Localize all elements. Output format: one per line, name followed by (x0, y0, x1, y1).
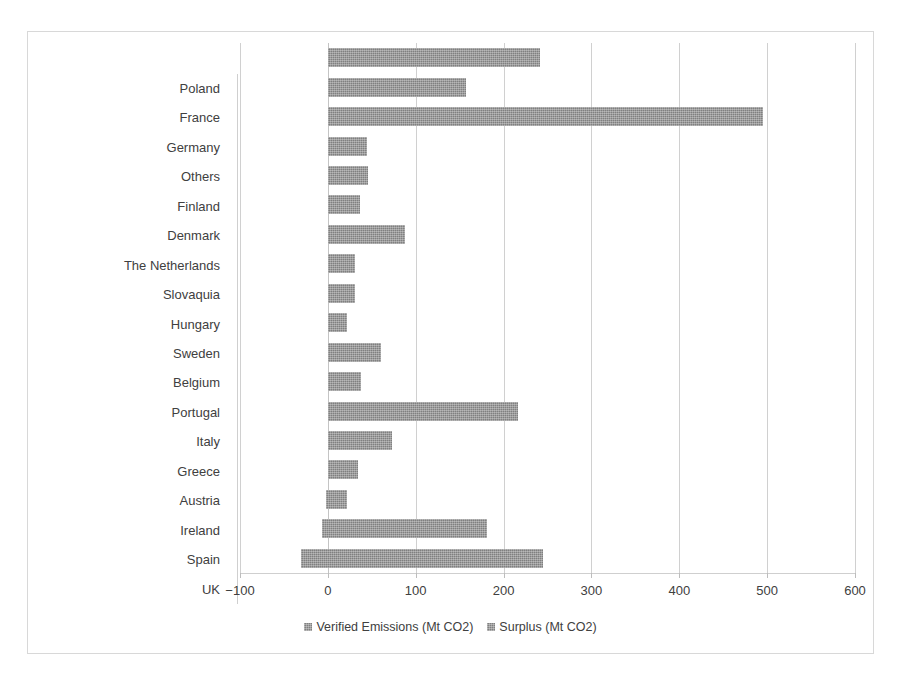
chart-frame: PolandFranceGermanyOthersFinlandDenmarkT… (27, 31, 874, 654)
category-label: France (180, 103, 220, 132)
bar[interactable] (328, 195, 361, 214)
bar[interactable] (328, 313, 347, 332)
bar-row (240, 190, 855, 219)
legend-label: Verified Emissions (Mt CO2) (316, 620, 473, 634)
bar[interactable] (328, 284, 355, 303)
legend-label: Surplus (Mt CO2) (499, 620, 596, 634)
value-axis-tick-label: 100 (405, 583, 427, 598)
bar-row (240, 279, 855, 308)
category-label: Austria (180, 486, 220, 515)
bar-row (240, 308, 855, 337)
category-label: Slovaquia (163, 280, 220, 309)
bar[interactable] (301, 549, 543, 568)
value-axis-line (240, 573, 855, 574)
bar[interactable] (328, 78, 466, 97)
bar-row (240, 249, 855, 278)
bar-row (240, 514, 855, 543)
bar[interactable] (326, 490, 347, 509)
category-label: Finland (177, 192, 220, 221)
category-label: Portugal (172, 398, 220, 427)
category-label: Spain (187, 545, 220, 574)
bar[interactable] (328, 48, 540, 67)
category-axis-line (237, 74, 238, 604)
category-label: Ireland (180, 516, 220, 545)
value-axis-tick-label: 500 (756, 583, 778, 598)
bar-rows (240, 43, 855, 573)
category-label: Germany (167, 133, 220, 162)
category-label: Sweden (173, 339, 220, 368)
bar[interactable] (328, 137, 367, 156)
category-label: UK (202, 575, 220, 604)
category-label: Belgium (173, 368, 220, 397)
legend-swatch-icon (304, 623, 312, 631)
bar[interactable] (328, 431, 392, 450)
value-axis-tick (679, 573, 680, 578)
bar-row (240, 220, 855, 249)
bar-row (240, 367, 855, 396)
plot-area (240, 43, 855, 573)
value-axis-tick-label: 600 (844, 583, 866, 598)
bar-row (240, 544, 855, 573)
bar[interactable] (328, 254, 355, 273)
bar-row (240, 455, 855, 484)
gridline-600 (855, 43, 856, 573)
value-axis-tick-label: 200 (493, 583, 515, 598)
category-axis-labels: PolandFranceGermanyOthersFinlandDenmarkT… (28, 74, 228, 604)
value-axis-tick (328, 573, 329, 578)
value-axis-tick (416, 573, 417, 578)
bar-row (240, 72, 855, 101)
value-axis-tick-label: 0 (324, 583, 331, 598)
bar-row (240, 396, 855, 425)
value-axis-tick (591, 573, 592, 578)
bar-row (240, 43, 855, 72)
bar[interactable] (328, 372, 361, 391)
category-label: The Netherlands (124, 251, 220, 280)
bar[interactable] (328, 166, 368, 185)
bar[interactable] (328, 460, 358, 479)
bar-row (240, 485, 855, 514)
value-axis-tick (504, 573, 505, 578)
value-axis-tick-label: 400 (668, 583, 690, 598)
value-axis-tick (767, 573, 768, 578)
bar-row (240, 102, 855, 131)
bar[interactable] (328, 343, 381, 362)
bar[interactable] (328, 107, 763, 126)
bar-row (240, 337, 855, 366)
legend-item[interactable]: Verified Emissions (Mt CO2) (304, 620, 473, 634)
bar-row (240, 131, 855, 160)
legend-swatch-icon (487, 623, 495, 631)
category-label: Hungary (171, 310, 220, 339)
bar-row (240, 161, 855, 190)
bar[interactable] (322, 519, 487, 538)
value-axis-tick-label: 300 (581, 583, 603, 598)
bar[interactable] (328, 402, 518, 421)
value-axis-tick (240, 573, 241, 578)
bar[interactable] (328, 225, 405, 244)
legend-item[interactable]: Surplus (Mt CO2) (487, 620, 596, 634)
value-axis-tick (855, 573, 856, 578)
bar-row (240, 426, 855, 455)
category-label: Italy (196, 427, 220, 456)
category-label: Poland (180, 74, 220, 103)
chart-legend: Verified Emissions (Mt CO2)Surplus (Mt C… (28, 620, 873, 634)
category-label: Greece (177, 457, 220, 486)
category-label: Others (181, 162, 220, 191)
category-label: Denmark (167, 221, 220, 250)
value-axis-tick-label: −100 (225, 583, 254, 598)
